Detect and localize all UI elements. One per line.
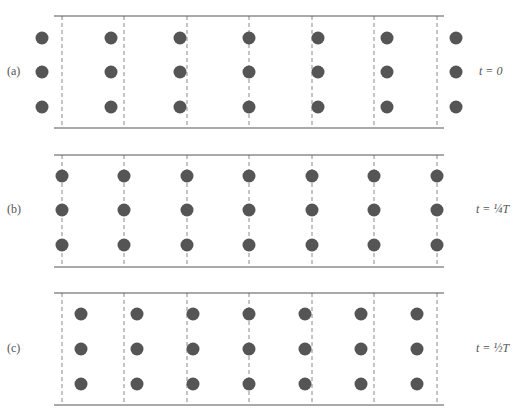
particle-dot <box>411 343 424 356</box>
particle-dot <box>381 32 394 45</box>
particle-dot <box>187 343 200 356</box>
particle-dot <box>368 204 381 217</box>
panel-label-a: (a) <box>7 64 20 79</box>
particle-dot <box>312 66 325 79</box>
particle-dot <box>312 101 325 114</box>
particle-dot <box>187 378 200 391</box>
particle-dot <box>105 32 118 45</box>
particle-dot <box>118 204 131 217</box>
wave-diagram <box>0 0 523 419</box>
particle-dot <box>75 378 88 391</box>
particle-dot <box>131 308 144 321</box>
particle-dot <box>381 66 394 79</box>
particle-dot <box>56 239 69 252</box>
particle-dot <box>131 343 144 356</box>
particle-dot <box>174 32 187 45</box>
particle-dot <box>299 343 312 356</box>
time-label-b: t = ¼T <box>476 202 509 217</box>
particle-dot <box>306 204 319 217</box>
particle-dot <box>131 378 144 391</box>
particle-dot <box>243 239 256 252</box>
particle-dot <box>243 308 256 321</box>
time-label-c: t = ½T <box>476 341 509 356</box>
particle-dot <box>431 239 444 252</box>
particle-dot <box>105 66 118 79</box>
particle-dot <box>431 170 444 183</box>
particle-dot <box>381 101 394 114</box>
particle-dot <box>368 239 381 252</box>
particle-dot <box>105 101 118 114</box>
particle-dot <box>118 170 131 183</box>
particle-dot <box>75 343 88 356</box>
particle-dot <box>243 66 256 79</box>
particle-dot <box>299 378 312 391</box>
particle-dot <box>306 239 319 252</box>
particle-dot <box>450 101 463 114</box>
particle-dot <box>355 343 368 356</box>
particle-dot <box>36 101 49 114</box>
particle-dot <box>181 204 194 217</box>
particle-dot <box>355 308 368 321</box>
particle-dot <box>411 378 424 391</box>
particle-dot <box>243 343 256 356</box>
particle-dot <box>450 66 463 79</box>
particle-dot <box>355 378 368 391</box>
particle-dot <box>243 32 256 45</box>
particle-dot <box>56 204 69 217</box>
particle-dot <box>411 308 424 321</box>
particle-dot <box>181 239 194 252</box>
particle-dot <box>312 32 325 45</box>
particle-dot <box>187 308 200 321</box>
particle-dot <box>431 204 444 217</box>
particle-dot <box>181 170 194 183</box>
particle-dot <box>243 101 256 114</box>
particle-dot <box>243 378 256 391</box>
particle-dot <box>450 32 463 45</box>
particle-dot <box>118 239 131 252</box>
particle-dot <box>243 170 256 183</box>
time-label-a: t = 0 <box>479 64 502 79</box>
particle-dot <box>306 170 319 183</box>
panel-label-c: (c) <box>7 341 20 356</box>
particle-dot <box>36 66 49 79</box>
particle-dot <box>368 170 381 183</box>
particle-dot <box>299 308 312 321</box>
panel-label-b: (b) <box>7 202 21 217</box>
particle-dot <box>243 204 256 217</box>
particle-dot <box>56 170 69 183</box>
particle-dot <box>174 101 187 114</box>
particle-dot <box>174 66 187 79</box>
particle-dot <box>36 32 49 45</box>
particle-dot <box>75 308 88 321</box>
